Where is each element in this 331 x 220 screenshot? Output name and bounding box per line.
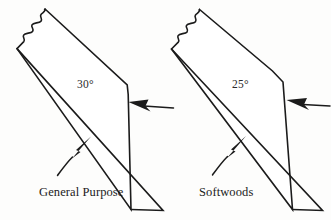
angle-label-general-purpose: 30° [77, 78, 94, 90]
primary-bevel-arrow-softwoods [287, 98, 331, 110]
blade-softwoods: 25° Softwoods [172, 9, 331, 211]
blade-outline-general-purpose [17, 9, 131, 210]
bevel-angle-diagram: 30° General Purpose 25° [0, 0, 331, 220]
blade-outline-softwoods [172, 9, 293, 210]
diagram-canvas: 30° General Purpose 25° [0, 0, 331, 220]
primary-bevel-arrow-general-purpose [129, 100, 174, 112]
arrow-head-icon [227, 136, 246, 158]
blade-general-purpose: 30° General Purpose [17, 9, 174, 211]
caption-general-purpose: General Purpose [39, 185, 124, 199]
angle-label-softwoods: 25° [232, 78, 249, 90]
caption-softwoods: Softwoods [199, 185, 253, 199]
